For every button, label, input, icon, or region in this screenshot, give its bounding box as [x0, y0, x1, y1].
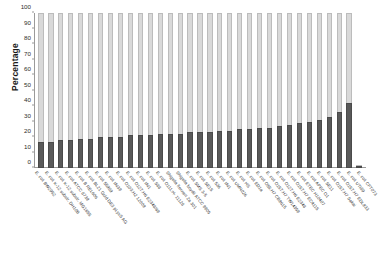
bar-stack — [58, 13, 63, 168]
y-tick-mark — [32, 74, 35, 75]
bar-column — [245, 13, 255, 168]
bar-stack — [237, 13, 242, 168]
bar-stack — [327, 13, 332, 168]
bar-column — [185, 13, 195, 168]
bar-segment-accessory — [78, 13, 83, 139]
y-tick-label: 0 — [28, 158, 31, 165]
bar-segment-accessory — [267, 13, 272, 128]
bar-column — [175, 13, 185, 168]
bar-segment-accessory — [168, 13, 173, 134]
bar-segment-core — [247, 129, 252, 168]
y-tick-mark — [32, 43, 35, 44]
bar-column — [106, 13, 116, 168]
bar-stack — [98, 13, 103, 168]
bar-stack — [307, 13, 312, 168]
bar-stack — [158, 13, 163, 168]
bar-column — [66, 13, 76, 168]
bar-segment-core — [217, 131, 222, 168]
bar-stack — [187, 13, 192, 168]
bar-segment-core — [207, 132, 212, 168]
bar-segment-accessory — [287, 13, 292, 125]
bar-stack — [38, 13, 43, 168]
y-tick-mark — [32, 120, 35, 121]
bar-segment-accessory — [337, 13, 342, 112]
bar-segment-accessory — [108, 13, 113, 137]
bar-stack — [148, 13, 153, 168]
bar-stack — [108, 13, 113, 168]
bar-stack — [68, 13, 73, 168]
bar-segment-core — [38, 142, 43, 168]
bar-segment-core — [287, 125, 292, 168]
plot-area: 0102030405060708090100 — [34, 13, 366, 168]
bar-segment-accessory — [247, 13, 252, 129]
y-tick-mark — [32, 151, 35, 152]
y-tick-mark — [32, 167, 35, 168]
bar-segment-core — [148, 135, 153, 168]
bar-column — [294, 13, 304, 168]
y-tick-label: 30 — [24, 111, 31, 118]
bar-segment-core — [346, 103, 351, 168]
bar-column — [265, 13, 275, 168]
bar-stack — [317, 13, 322, 168]
bar-column — [36, 13, 46, 168]
bar-segment-accessory — [327, 13, 332, 117]
bar-stack — [227, 13, 232, 168]
bar-stack — [197, 13, 202, 168]
bar-stack — [168, 13, 173, 168]
bar-stack — [207, 13, 212, 168]
bar-stack — [346, 13, 351, 168]
bar-segment-core — [78, 139, 83, 168]
bar-group — [34, 13, 366, 168]
bar-stack — [337, 13, 342, 168]
bar-segment-core — [267, 128, 272, 168]
y-tick-label: 60 — [24, 65, 31, 72]
bar-stack — [78, 13, 83, 168]
bar-stack — [297, 13, 302, 168]
bar-segment-core — [317, 120, 322, 168]
bar-segment-accessory — [158, 13, 163, 134]
bar-segment-core — [178, 134, 183, 168]
bar-segment-accessory — [138, 13, 143, 135]
bar-column — [205, 13, 215, 168]
bar-segment-core — [58, 140, 63, 168]
bar-column — [235, 13, 245, 168]
bar-column — [195, 13, 205, 168]
bar-segment-accessory — [346, 13, 351, 103]
bar-segment-core — [356, 166, 361, 168]
bar-segment-core — [277, 126, 282, 168]
y-tick-label: 100 — [21, 3, 31, 10]
bar-segment-accessory — [68, 13, 73, 140]
bar-stack — [267, 13, 272, 168]
bar-segment-core — [297, 123, 302, 168]
bar-segment-core — [68, 140, 73, 168]
y-tick-mark — [32, 89, 35, 90]
bar-column — [56, 13, 66, 168]
bar-segment-accessory — [38, 13, 43, 142]
bar-column — [165, 13, 175, 168]
bar-column — [304, 13, 314, 168]
bar-column — [116, 13, 126, 168]
bar-segment-core — [118, 137, 123, 168]
bar-segment-core — [227, 131, 232, 168]
bar-segment-accessory — [307, 13, 312, 122]
y-tick-mark — [32, 105, 35, 106]
bar-column — [324, 13, 334, 168]
bar-column — [46, 13, 56, 168]
bar-segment-core — [138, 135, 143, 168]
bar-stack — [247, 13, 252, 168]
y-tick-mark — [32, 27, 35, 28]
bar-segment-core — [307, 122, 312, 169]
bar-segment-accessory — [178, 13, 183, 134]
bar-segment-core — [48, 142, 53, 168]
y-tick-label: 10 — [24, 142, 31, 149]
bar-stack — [88, 13, 93, 168]
y-tick-label: 90 — [24, 18, 31, 25]
bar-column — [344, 13, 354, 168]
bar-column — [215, 13, 225, 168]
bar-segment-accessory — [118, 13, 123, 137]
bar-segment-accessory — [237, 13, 242, 129]
bar-segment-accessory — [207, 13, 212, 132]
bar-column — [145, 13, 155, 168]
bar-segment-core — [128, 135, 133, 168]
y-tick-mark — [32, 12, 35, 13]
